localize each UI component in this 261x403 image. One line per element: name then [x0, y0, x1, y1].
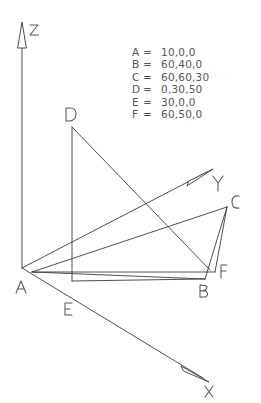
line-drawing — [0, 0, 261, 403]
axis-label-glyph-x — [205, 386, 213, 397]
legend-point-name: F — [132, 108, 143, 120]
legend-row: A=10,0,0 — [132, 46, 209, 58]
legend-point-name: E — [132, 96, 143, 108]
legend-equals: = — [143, 108, 161, 120]
axis-arrowhead-z — [18, 22, 27, 48]
legend-equals: = — [143, 58, 161, 70]
legend-point-value: 30,0,0 — [161, 96, 196, 108]
legend-point-value: 0,30,50 — [161, 83, 202, 95]
legend-row: D=0,30,50 — [132, 83, 209, 95]
legend-point-value: 60,40,0 — [161, 58, 202, 70]
edge-e-b — [72, 279, 205, 281]
axis-arrowhead-y — [187, 169, 213, 186]
legend-row: C=60,60,30 — [132, 71, 209, 83]
legend-point-value: 60,50,0 — [161, 108, 202, 120]
legend-row: E=30,0,0 — [132, 96, 209, 108]
axis-label-glyph-z — [30, 25, 39, 35]
point-label-glyph-e — [65, 303, 72, 315]
edge-a-b — [32, 272, 205, 279]
edge-a-c — [32, 207, 227, 272]
coordinate-legend: A=10,0,0 B=60,40,0 C=60,60,30 D=0,30,50 … — [132, 46, 209, 120]
legend-point-value: 10,0,0 — [161, 46, 196, 58]
legend-point-name: B — [132, 58, 143, 70]
legend-equals: = — [143, 83, 161, 95]
edge-d-b — [72, 127, 210, 270]
legend-equals: = — [143, 71, 161, 83]
legend-point-name: D — [132, 83, 143, 95]
legend-row: F=60,50,0 — [132, 108, 209, 120]
point-label-glyph-d — [66, 108, 76, 121]
point-label-glyph-b — [200, 285, 208, 297]
legend-point-name: A — [132, 46, 143, 58]
axis-arrowhead-x — [181, 366, 209, 382]
point-label-glyph-a — [16, 281, 26, 293]
legend-point-value: 60,60,30 — [161, 71, 209, 83]
axis-label-glyph-y — [213, 176, 223, 191]
legend-point-name: C — [132, 71, 143, 83]
legend-equals: = — [143, 46, 161, 58]
legend-row: B=60,40,0 — [132, 58, 209, 70]
point-label-glyph-f — [221, 265, 227, 278]
figure-canvas: A=10,0,0 B=60,40,0 C=60,60,30 D=0,30,50 … — [0, 0, 261, 403]
axis-line-x — [22, 268, 203, 378]
axis-line-y — [22, 172, 207, 268]
legend-equals: = — [143, 96, 161, 108]
point-label-glyph-c — [232, 196, 239, 208]
